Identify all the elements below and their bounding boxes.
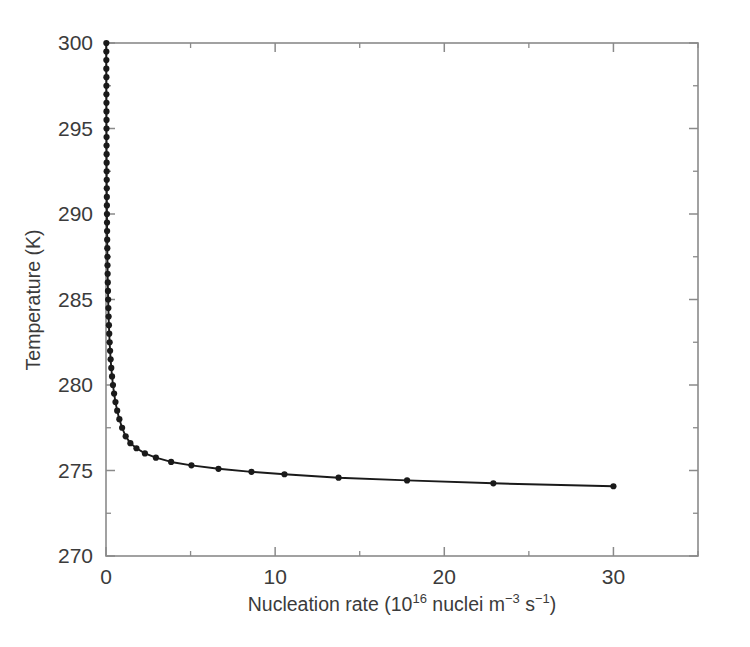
x-tick-label: 0	[100, 565, 112, 588]
data-point	[103, 91, 109, 97]
data-point	[490, 480, 496, 486]
data-point	[248, 469, 254, 475]
data-point	[103, 48, 109, 54]
data-point	[103, 57, 109, 63]
data-point	[168, 459, 174, 465]
data-point	[281, 471, 287, 477]
data-point	[104, 168, 110, 174]
data-point	[127, 440, 133, 446]
data-point	[103, 108, 109, 114]
data-point	[103, 125, 109, 131]
data-point	[104, 245, 110, 251]
data-point	[103, 83, 109, 89]
data-point	[103, 74, 109, 80]
x-tick-label: 10	[263, 565, 286, 588]
y-tick-label: 270	[58, 544, 93, 567]
data-point	[104, 202, 110, 208]
data-point	[110, 382, 116, 388]
data-point	[105, 279, 111, 285]
data-point	[107, 348, 113, 354]
data-point	[335, 475, 341, 481]
y-tick-label: 275	[58, 459, 93, 482]
data-point	[153, 455, 159, 461]
data-point	[108, 365, 114, 371]
data-point	[215, 466, 221, 472]
data-point	[114, 408, 120, 414]
data-point	[105, 305, 111, 311]
x-axis-title-exponent: 16	[412, 591, 426, 606]
data-point	[103, 66, 109, 72]
data-markers	[103, 40, 616, 489]
data-point	[142, 450, 148, 456]
data-point	[111, 390, 117, 396]
x-axis-title-space-s: s	[520, 593, 535, 615]
data-point	[104, 228, 110, 234]
data-point	[103, 143, 109, 149]
data-point	[133, 445, 139, 451]
data-point	[103, 117, 109, 123]
data-line-nucleation-curve	[106, 43, 613, 486]
data-point	[104, 237, 110, 243]
y-tick-label: 280	[58, 373, 93, 396]
data-point	[105, 288, 111, 294]
plot-frame	[106, 43, 698, 556]
data-point	[103, 134, 109, 140]
data-point	[106, 331, 112, 337]
x-tick-label: 20	[433, 565, 456, 588]
data-point	[188, 462, 194, 468]
y-axis-tick-labels: 270275280285290295300	[58, 31, 93, 567]
y-axis-title: Temperature (K)	[22, 230, 44, 371]
data-point	[107, 339, 113, 345]
x-axis-minor-ticks	[191, 43, 698, 556]
data-point	[119, 425, 125, 431]
x-axis-title-sup-minus1: −1	[535, 591, 550, 606]
x-axis-title: Nucleation rate (1016 nuclei m−3 s−1)	[248, 591, 557, 615]
data-point	[104, 151, 110, 157]
data-point	[105, 296, 111, 302]
data-point	[109, 373, 115, 379]
data-point	[106, 322, 112, 328]
data-point	[105, 271, 111, 277]
data-point	[104, 262, 110, 268]
data-point	[104, 160, 110, 166]
data-point	[103, 40, 109, 46]
data-point	[108, 356, 114, 362]
y-axis-minor-ticks	[106, 86, 698, 514]
y-axis-major-ticks	[106, 43, 698, 556]
x-axis-title-sup-minus3: −3	[505, 591, 520, 606]
data-point	[104, 254, 110, 260]
data-point	[104, 185, 110, 191]
y-tick-label: 290	[58, 202, 93, 225]
y-tick-label: 285	[58, 288, 93, 311]
figure-container: 0102030 270275280285290295300 Temperatur…	[0, 0, 750, 647]
x-axis-title-prefix: Nucleation rate (10	[248, 593, 413, 615]
data-point	[104, 177, 110, 183]
x-tick-label: 30	[602, 565, 625, 588]
data-point	[104, 211, 110, 217]
data-point	[404, 477, 410, 483]
y-tick-label: 300	[58, 31, 93, 54]
data-point	[116, 416, 122, 422]
data-point	[104, 194, 110, 200]
x-axis-title-suffix: )	[550, 593, 557, 615]
x-axis-title-middle: nuclei m	[427, 593, 505, 615]
data-point	[112, 399, 118, 405]
y-tick-label: 295	[58, 117, 93, 140]
data-point	[103, 100, 109, 106]
data-point	[106, 314, 112, 320]
data-point	[104, 219, 110, 225]
data-point	[610, 483, 616, 489]
nucleation-rate-temperature-chart: 0102030 270275280285290295300 Temperatur…	[0, 0, 750, 647]
x-axis-tick-labels: 0102030	[100, 565, 625, 588]
data-point	[123, 433, 129, 439]
